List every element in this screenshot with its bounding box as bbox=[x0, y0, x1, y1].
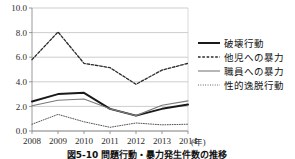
y-tick-label: 4.0 bbox=[16, 77, 28, 87]
x-tick-label: 2011 bbox=[101, 136, 119, 146]
x-tick-label: 2013 bbox=[153, 136, 172, 146]
y-tick-label: 0.0 bbox=[16, 126, 28, 136]
x-tick-label: 2012 bbox=[127, 136, 145, 146]
figure-container: 0.02.04.06.08.010.0 20082009201020112012… bbox=[0, 0, 295, 159]
y-tick-label: 2.0 bbox=[16, 102, 28, 112]
legend-label-1: 破壊行動 bbox=[224, 38, 264, 49]
y-tick-label: 6.0 bbox=[16, 52, 28, 62]
figure-caption: 図5-10 問題行動・暴力発生件数の推移 bbox=[67, 149, 228, 159]
x-tick-label: 2009 bbox=[49, 136, 68, 146]
y-tick-label: 8.0 bbox=[16, 28, 28, 38]
x-tick-label: 2008 bbox=[23, 136, 42, 146]
x-axis-unit-label: (年) bbox=[191, 137, 206, 147]
x-tick-label: 2010 bbox=[75, 136, 94, 146]
legend-label-2: 他児への暴力 bbox=[224, 52, 284, 63]
y-tick-label: 10.0 bbox=[11, 3, 27, 13]
legend-label-4: 性的逸脱行動 bbox=[224, 80, 284, 91]
line-chart: 0.02.04.06.08.010.0 20082009201020112012… bbox=[0, 0, 295, 159]
legend-label-3: 職員への暴力 bbox=[224, 66, 284, 77]
